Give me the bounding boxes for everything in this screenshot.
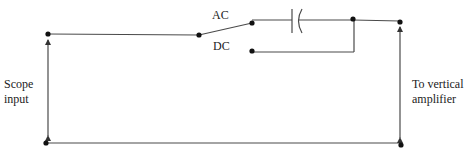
input-terminal-bottom-node	[43, 140, 48, 145]
output-top-wire	[353, 20, 400, 21]
output-terminal-bottom-node	[398, 142, 403, 147]
output-terminal-top-node	[397, 19, 402, 24]
ac-label: AC	[212, 8, 229, 22]
capacitor-plate-curved	[299, 9, 303, 33]
dc-contact-node	[249, 48, 254, 53]
circuit-diagram: AC DC Scope input To vertical amplifier	[0, 0, 469, 160]
switch-pivot-node	[196, 32, 201, 37]
dc-label: DC	[213, 39, 230, 53]
vertical-amplifier-label-line2: amplifier	[412, 92, 456, 106]
scope-input-label-line1: Scope	[4, 77, 33, 91]
junction-node	[350, 16, 355, 21]
scope-input-label-line2: input	[4, 92, 29, 106]
ac-contact-node	[249, 20, 254, 25]
input-terminal-top-node	[45, 31, 50, 36]
switch-blade	[199, 23, 252, 35]
vertical-amplifier-label-line1: To vertical	[412, 77, 464, 91]
input-top-wire	[48, 34, 199, 35]
